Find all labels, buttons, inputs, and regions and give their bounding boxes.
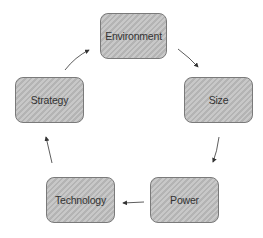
arrow-technology-to-strategy — [46, 137, 52, 163]
arrow-power-to-technology — [123, 202, 144, 203]
node-label: Strategy — [31, 94, 69, 106]
node-size: Size — [184, 77, 253, 123]
arrow-strategy-to-environment — [65, 50, 89, 70]
node-label: Power — [170, 194, 199, 206]
node-label: Environment — [105, 30, 162, 42]
node-label: Size — [209, 94, 229, 106]
node-power: Power — [150, 177, 219, 223]
node-strategy: Strategy — [15, 77, 84, 123]
node-label: Technology — [55, 194, 106, 206]
node-technology: Technology — [46, 177, 115, 223]
arrow-size-to-power — [213, 137, 219, 162]
arrow-environment-to-size — [178, 49, 198, 67]
node-environment: Environment — [100, 13, 167, 59]
